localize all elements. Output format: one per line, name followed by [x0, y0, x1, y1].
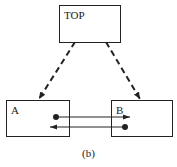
node-b: B: [111, 100, 173, 137]
figure-caption: (b): [0, 147, 177, 159]
node-b-label: B: [116, 104, 123, 116]
edge-top-to-b: [106, 42, 140, 99]
node-a: A: [6, 100, 70, 137]
diagram: TOP A B (b): [0, 0, 177, 167]
node-top: TOP: [59, 5, 121, 43]
node-top-label: TOP: [64, 9, 85, 21]
edge-top-to-a: [39, 42, 75, 99]
node-a-label: A: [11, 104, 19, 116]
